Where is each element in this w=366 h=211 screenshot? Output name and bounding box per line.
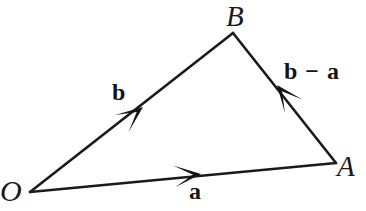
vertex-label-A: A (337, 152, 355, 181)
segment-BA-line (233, 33, 336, 163)
vector-label-a: a (189, 179, 201, 203)
segment-OA-line (30, 163, 336, 192)
diagram-canvas (0, 0, 366, 211)
vertex-label-B: B (226, 2, 244, 31)
vector-label-b-minus-a: b − a (284, 59, 340, 83)
vector-label-b: b (112, 80, 125, 104)
vector-triangle-diagram: O B A b a b − a (0, 0, 366, 211)
vertex-label-O: O (0, 176, 22, 206)
